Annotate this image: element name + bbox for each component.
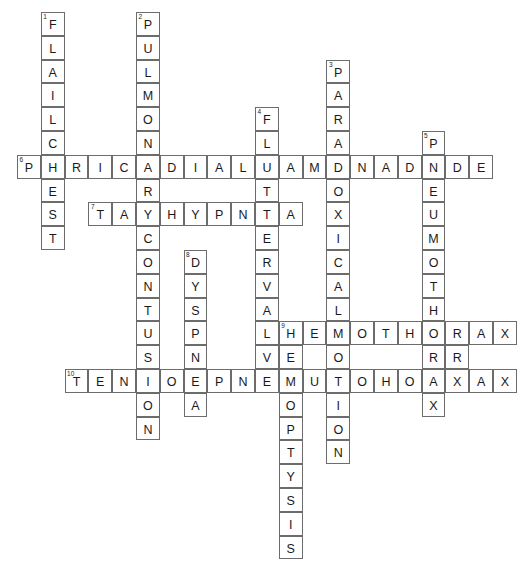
crossword-cell[interactable]: T bbox=[326, 369, 350, 393]
crossword-cell[interactable]: 4F bbox=[255, 107, 279, 131]
crossword-cell[interactable]: E bbox=[303, 321, 327, 345]
crossword-cell[interactable]: Y bbox=[136, 202, 160, 226]
crossword-cell[interactable]: N bbox=[184, 345, 208, 369]
crossword-cell[interactable]: 5P bbox=[422, 131, 446, 155]
crossword-cell[interactable]: A bbox=[279, 202, 303, 226]
crossword-cell[interactable]: A bbox=[469, 321, 493, 345]
crossword-cell[interactable]: O bbox=[422, 321, 446, 345]
crossword-cell[interactable]: 9H bbox=[279, 321, 303, 345]
crossword-cell[interactable]: M bbox=[303, 155, 327, 179]
crossword-cell[interactable]: A bbox=[469, 369, 493, 393]
crossword-cell[interactable]: P bbox=[279, 417, 303, 441]
crossword-cell[interactable]: C bbox=[136, 226, 160, 250]
crossword-cell[interactable]: Y bbox=[184, 202, 208, 226]
crossword-cell[interactable]: S bbox=[279, 488, 303, 512]
crossword-cell[interactable]: O bbox=[279, 393, 303, 417]
crossword-cell[interactable]: M bbox=[326, 321, 350, 345]
crossword-cell[interactable]: A bbox=[326, 274, 350, 298]
crossword-cell[interactable]: U bbox=[136, 321, 160, 345]
crossword-cell[interactable]: X bbox=[493, 321, 517, 345]
crossword-cell[interactable]: N bbox=[422, 155, 446, 179]
crossword-cell[interactable]: T bbox=[255, 202, 279, 226]
crossword-cell[interactable]: H bbox=[374, 369, 398, 393]
crossword-cell[interactable]: T bbox=[41, 226, 65, 250]
crossword-cell[interactable]: V bbox=[255, 274, 279, 298]
crossword-cell[interactable]: M bbox=[422, 226, 446, 250]
crossword-cell[interactable]: S bbox=[184, 298, 208, 322]
crossword-cell[interactable]: A bbox=[207, 155, 231, 179]
crossword-cell[interactable]: 1F bbox=[41, 12, 65, 36]
crossword-cell[interactable]: O bbox=[326, 345, 350, 369]
crossword-cell[interactable]: Y bbox=[184, 274, 208, 298]
crossword-cell[interactable]: X bbox=[422, 393, 446, 417]
crossword-cell[interactable]: H bbox=[160, 202, 184, 226]
crossword-cell[interactable]: T bbox=[374, 321, 398, 345]
crossword-cell[interactable]: O bbox=[350, 321, 374, 345]
crossword-cell[interactable]: E bbox=[279, 345, 303, 369]
crossword-cell[interactable]: A bbox=[255, 298, 279, 322]
crossword-cell[interactable]: L bbox=[136, 60, 160, 84]
crossword-cell[interactable]: O bbox=[326, 417, 350, 441]
crossword-cell[interactable]: 3P bbox=[326, 60, 350, 84]
crossword-cell[interactable]: S bbox=[279, 536, 303, 560]
crossword-cell[interactable]: A bbox=[374, 155, 398, 179]
crossword-cell[interactable]: A bbox=[41, 60, 65, 84]
crossword-cell[interactable]: O bbox=[398, 369, 422, 393]
crossword-cell[interactable]: P bbox=[184, 321, 208, 345]
crossword-cell[interactable]: N bbox=[136, 274, 160, 298]
crossword-cell[interactable]: I bbox=[136, 369, 160, 393]
crossword-cell[interactable]: T bbox=[279, 440, 303, 464]
crossword-cell[interactable]: U bbox=[303, 369, 327, 393]
crossword-cell[interactable]: R bbox=[445, 321, 469, 345]
crossword-cell[interactable]: E bbox=[255, 369, 279, 393]
crossword-cell[interactable]: R bbox=[445, 345, 469, 369]
crossword-cell[interactable]: U bbox=[422, 202, 446, 226]
crossword-cell[interactable]: L bbox=[231, 155, 255, 179]
crossword-cell[interactable]: R bbox=[65, 155, 89, 179]
crossword-cell[interactable]: H bbox=[422, 298, 446, 322]
crossword-cell[interactable]: L bbox=[255, 321, 279, 345]
crossword-cell[interactable]: C bbox=[326, 250, 350, 274]
crossword-cell[interactable]: L bbox=[41, 36, 65, 60]
crossword-cell[interactable]: D bbox=[326, 155, 350, 179]
crossword-cell[interactable]: P bbox=[207, 202, 231, 226]
crossword-cell[interactable]: C bbox=[112, 155, 136, 179]
crossword-cell[interactable]: T bbox=[255, 179, 279, 203]
crossword-cell[interactable]: A bbox=[279, 155, 303, 179]
crossword-cell[interactable]: D bbox=[445, 155, 469, 179]
crossword-cell[interactable]: V bbox=[255, 345, 279, 369]
crossword-cell[interactable]: H bbox=[398, 321, 422, 345]
crossword-cell[interactable]: E bbox=[88, 369, 112, 393]
crossword-cell[interactable]: T bbox=[422, 274, 446, 298]
crossword-cell[interactable]: A bbox=[326, 83, 350, 107]
crossword-cell[interactable]: R bbox=[136, 179, 160, 203]
crossword-cell[interactable]: O bbox=[136, 107, 160, 131]
crossword-cell[interactable]: O bbox=[136, 393, 160, 417]
crossword-cell[interactable]: I bbox=[326, 393, 350, 417]
crossword-cell[interactable]: N bbox=[231, 202, 255, 226]
crossword-cell[interactable]: R bbox=[255, 250, 279, 274]
crossword-cell[interactable]: Y bbox=[279, 464, 303, 488]
crossword-cell[interactable]: 8D bbox=[184, 250, 208, 274]
crossword-cell[interactable]: L bbox=[326, 298, 350, 322]
crossword-cell[interactable]: X bbox=[326, 202, 350, 226]
crossword-cell[interactable]: X bbox=[445, 369, 469, 393]
crossword-cell[interactable]: I bbox=[41, 83, 65, 107]
crossword-cell[interactable]: N bbox=[326, 440, 350, 464]
crossword-cell[interactable]: M bbox=[279, 369, 303, 393]
crossword-cell[interactable]: I bbox=[88, 155, 112, 179]
crossword-cell[interactable]: O bbox=[350, 369, 374, 393]
crossword-cell[interactable]: O bbox=[136, 250, 160, 274]
crossword-cell[interactable]: N bbox=[231, 369, 255, 393]
crossword-cell[interactable]: D bbox=[160, 155, 184, 179]
crossword-cell[interactable]: T bbox=[136, 298, 160, 322]
crossword-cell[interactable]: U bbox=[136, 36, 160, 60]
crossword-cell[interactable]: N bbox=[350, 155, 374, 179]
crossword-cell[interactable]: 7T bbox=[88, 202, 112, 226]
crossword-cell[interactable]: E bbox=[184, 369, 208, 393]
crossword-cell[interactable]: S bbox=[136, 345, 160, 369]
crossword-cell[interactable]: 6P bbox=[17, 155, 41, 179]
crossword-cell[interactable]: D bbox=[398, 155, 422, 179]
crossword-cell[interactable]: I bbox=[279, 512, 303, 536]
crossword-cell[interactable]: E bbox=[422, 179, 446, 203]
